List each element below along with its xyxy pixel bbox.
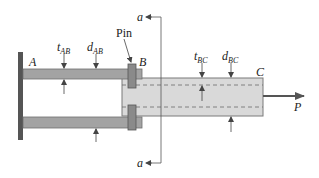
- d-ab-label: dAB: [87, 40, 103, 56]
- point-b-label: B: [139, 55, 147, 69]
- load-label: P: [293, 100, 302, 114]
- fixed-wall: [18, 52, 23, 140]
- section-label-bottom: a: [137, 156, 143, 170]
- pin-leader-arrow: [124, 39, 131, 62]
- bar-ab-bottom: [23, 117, 142, 128]
- pin-label: Pin: [116, 26, 132, 40]
- pinned-bar-tube-diagram: a a P A B C Pin tAB dAB tBC dBC: [0, 0, 319, 178]
- section-label-top: a: [137, 10, 143, 24]
- tube-bc: [122, 78, 263, 116]
- pin-top: [128, 64, 136, 88]
- t-ab-label: tAB: [57, 40, 70, 56]
- bar-ab-top: [23, 69, 142, 79]
- point-c-label: C: [256, 65, 265, 79]
- point-a-label: A: [28, 55, 37, 69]
- t-bc-label: tBC: [194, 49, 208, 65]
- pin-bottom: [128, 105, 136, 130]
- d-bc-label: dBC: [222, 49, 239, 65]
